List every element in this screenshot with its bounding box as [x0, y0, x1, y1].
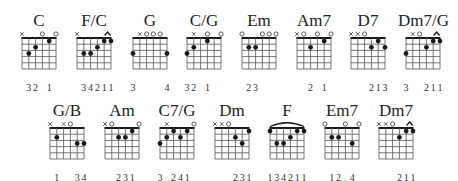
muted-string-icon	[165, 122, 169, 126]
muted-string-icon	[377, 122, 381, 126]
open-string-icon	[274, 32, 278, 36]
barre-caret-icon	[407, 122, 413, 126]
chord-c-over-g: C/G321	[179, 12, 229, 102]
chord-name: G/B	[42, 102, 92, 119]
finger-dot	[404, 51, 409, 56]
chord-c: C321	[14, 12, 64, 102]
finger-dot	[191, 45, 196, 50]
open-string-icon	[323, 122, 327, 126]
finger-dot	[109, 39, 114, 44]
muted-string-icon	[356, 32, 360, 36]
open-string-icon	[260, 32, 264, 36]
finger-dot	[185, 51, 190, 56]
finger-number: 4	[348, 172, 356, 181]
finger-number: 1	[183, 172, 191, 181]
finger-dot	[240, 141, 245, 146]
chord-name: F	[262, 102, 312, 119]
finger-dot	[233, 135, 238, 140]
finger-number: 1	[128, 172, 136, 181]
finger-number: 4	[80, 172, 88, 181]
muted-string-icon	[62, 122, 66, 126]
finger-dot	[158, 141, 163, 146]
chord-name: Dm7/G	[398, 12, 448, 29]
fretboard-diagram	[289, 30, 339, 80]
barre-arc-icon	[270, 123, 304, 127]
finger-dot	[274, 141, 279, 146]
finger-dot	[95, 45, 100, 50]
finger-number: 3	[381, 82, 389, 94]
chord-em7: Em7124	[317, 102, 367, 181]
open-string-icon	[240, 32, 244, 36]
chord-dm7-over-g: Dm7/G3211	[398, 12, 448, 102]
finger-dot	[164, 135, 169, 140]
finger-number: 1	[53, 172, 61, 181]
fingering-numbers: 134	[42, 172, 92, 181]
chord-dm: Dm231	[207, 102, 257, 181]
chord-name: Dm7	[371, 102, 421, 119]
finger-dot	[131, 51, 136, 56]
open-string-icon	[343, 122, 347, 126]
finger-number: 1	[45, 82, 53, 94]
fretboard-diagram	[317, 120, 367, 170]
fretboard-diagram	[234, 30, 284, 80]
chord-am7: Am721	[289, 12, 339, 102]
muted-string-icon	[20, 32, 24, 36]
finger-dot	[268, 129, 273, 134]
chord-d7: D7213	[343, 12, 393, 102]
fingering-numbers: 213	[343, 82, 393, 94]
finger-dot	[75, 141, 80, 146]
finger-dot	[411, 129, 416, 134]
chord-name: Am	[97, 102, 147, 119]
fretboard-diagram	[207, 120, 257, 170]
muted-string-icon	[213, 122, 217, 126]
finger-dot	[350, 141, 355, 146]
finger-dot	[165, 51, 170, 56]
finger-number: 3	[252, 82, 260, 94]
finger-dot	[205, 39, 210, 44]
finger-dot	[329, 135, 334, 140]
finger-dot	[322, 39, 327, 44]
chord-name: D7	[343, 12, 393, 29]
chord-name: Am7	[289, 12, 339, 29]
chord-name: C	[14, 12, 64, 29]
finger-number: 1	[107, 82, 115, 94]
finger-dot	[82, 141, 87, 146]
finger-dot	[88, 51, 93, 56]
finger-dot	[424, 45, 429, 50]
finger-number: 4	[163, 82, 171, 94]
fingering-numbers: 3211	[398, 82, 448, 94]
chord-name: F/C	[69, 12, 119, 29]
muted-string-icon	[411, 32, 415, 36]
chord-em: Em23	[234, 12, 284, 102]
finger-dot	[246, 45, 251, 50]
finger-dot	[171, 129, 176, 134]
finger-number: 2	[335, 172, 343, 181]
muted-string-icon	[48, 122, 52, 126]
muted-string-icon	[349, 32, 353, 36]
chord-name: Dm	[207, 102, 257, 119]
chord-f-over-c: F/C34211	[69, 12, 119, 102]
open-string-icon	[68, 122, 72, 126]
finger-dot	[404, 129, 409, 134]
finger-number: 2	[32, 82, 40, 94]
chord-f: F134211	[262, 102, 312, 181]
fingering-numbers: 23	[234, 82, 284, 94]
muted-string-icon	[103, 122, 107, 126]
open-string-icon	[158, 32, 162, 36]
open-string-icon	[137, 122, 141, 126]
chord-name: G	[125, 12, 175, 29]
finger-dot	[26, 51, 31, 56]
finger-dot	[130, 129, 135, 134]
fretboard-diagram	[69, 30, 119, 80]
finger-dot	[336, 135, 341, 140]
open-string-icon	[302, 32, 306, 36]
finger-dot	[123, 135, 128, 140]
open-string-icon	[329, 32, 333, 36]
finger-number: 1	[245, 172, 253, 181]
finger-dot	[116, 135, 121, 140]
chord-name: C7/G	[152, 102, 202, 119]
chord-g-over-b: G/B134	[42, 102, 92, 181]
open-string-icon	[391, 122, 395, 126]
open-string-icon	[192, 122, 196, 126]
fingering-numbers: 211	[371, 172, 421, 181]
